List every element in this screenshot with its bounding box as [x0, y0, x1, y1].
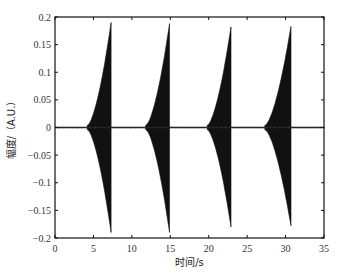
y-tick-label: 0.1	[39, 67, 52, 78]
chart: 05101520253035 0.20.150.10.050−0.05−0.1−…	[0, 0, 337, 280]
y-tick-label: 0.2	[39, 12, 52, 23]
y-tick-label: −0.2	[33, 233, 51, 244]
x-tick-label: 25	[242, 243, 252, 254]
x-tick-label: 0	[53, 243, 58, 254]
baseline-trace	[55, 127, 325, 129]
y-tick-label: −0.15	[28, 205, 51, 216]
y-tick-label: −0.1	[33, 177, 51, 188]
y-tick-label: 0.15	[34, 39, 52, 50]
x-tick-label: 20	[204, 243, 214, 254]
x-tick-label: 15	[165, 243, 175, 254]
y-tick-label: 0	[46, 122, 51, 133]
burst	[265, 26, 291, 225]
x-tick-label: 5	[91, 243, 96, 254]
x-tick-label: 30	[281, 243, 291, 254]
y-axis-label: 幅度/（A.U.）	[5, 96, 17, 160]
y-tick-label: 0.05	[34, 94, 52, 105]
x-tick-label: 35	[319, 243, 329, 254]
x-tick-label: 10	[127, 243, 137, 254]
y-tick-label: −0.05	[28, 150, 51, 161]
x-axis-label: 时间/s	[175, 256, 204, 268]
